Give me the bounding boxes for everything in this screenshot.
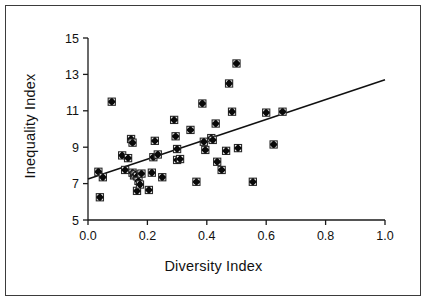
svg-text:5: 5 [72,214,79,228]
svg-text:9: 9 [72,141,79,155]
figure-container: 5791113150.00.20.40.60.81.0 Diversity In… [0,0,427,302]
svg-text:0.6: 0.6 [258,229,275,243]
svg-text:0.0: 0.0 [79,229,96,243]
svg-text:0.4: 0.4 [198,229,215,243]
svg-text:13: 13 [65,68,79,82]
x-axis-title: Diversity Index [0,258,427,274]
svg-text:7: 7 [72,177,79,191]
svg-text:1.0: 1.0 [376,229,393,243]
svg-text:0.8: 0.8 [317,229,334,243]
data-points [95,60,286,201]
y-axis-title-wrapper: Inequality Index [22,26,42,226]
svg-text:0.2: 0.2 [139,229,156,243]
y-axis-title: Inequality Index [22,26,38,226]
trend-line [88,80,385,179]
svg-text:11: 11 [66,104,79,118]
tick-labels: 5791113150.00.20.40.60.81.0 [65,32,394,244]
svg-text:15: 15 [65,32,79,46]
scatter-plot: 5791113150.00.20.40.60.81.0 [0,0,427,302]
